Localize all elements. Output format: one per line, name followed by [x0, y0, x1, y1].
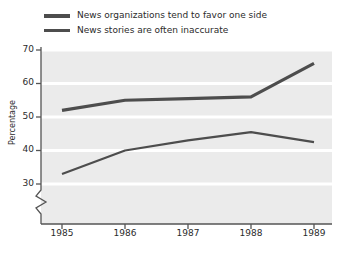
- line-chart-figure: News organizations tend to favor one sid…: [0, 0, 343, 258]
- plot-area: [0, 0, 343, 258]
- y-axis-ticks: [36, 50, 41, 184]
- x-axis-ticks: [62, 224, 314, 229]
